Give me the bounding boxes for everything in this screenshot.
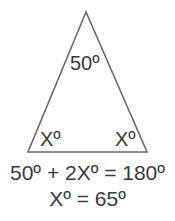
apex-angle-label: 50º <box>70 53 100 73</box>
right-base-angle-label: Xº <box>115 129 136 149</box>
equation-line-1: 50º + 2Xº = 180º <box>0 162 175 184</box>
left-base-angle-label: Xº <box>40 129 61 149</box>
equation-line-2: Xº = 65º <box>0 188 175 210</box>
